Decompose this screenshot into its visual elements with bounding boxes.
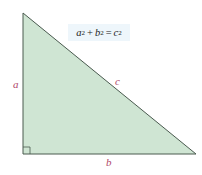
formula-plus: +: [87, 27, 93, 38]
label-side-a: a: [13, 79, 19, 90]
formula-equals: =: [106, 27, 112, 38]
label-side-c: c: [115, 76, 120, 87]
pythagorean-formula: a2 + b2 = c2: [68, 24, 130, 41]
pythagorean-diagram: a2 + b2 = c2 a c b: [0, 0, 202, 175]
label-side-b: b: [106, 157, 112, 168]
